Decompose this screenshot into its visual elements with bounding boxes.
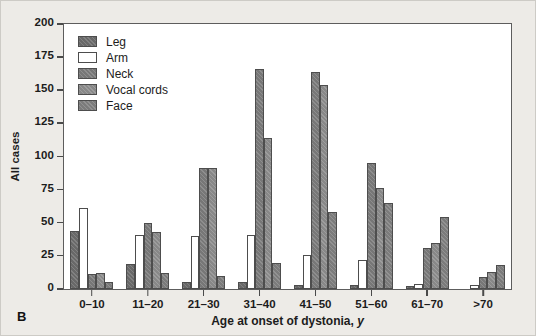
bar [191,236,200,289]
y-tick-label: 100 [35,149,55,161]
x-tick-mark [91,290,93,296]
x-tick: 41–50 [299,290,331,302]
legend-swatch-icon [78,68,97,79]
bar [247,235,256,289]
x-tick-label: 0–10 [79,298,105,310]
x-tick: 61–70 [411,290,443,302]
x-tick-label: >70 [473,298,493,310]
bar [88,274,97,289]
x-axis-tick-group: 0–1011–2021–3031–4041–5051–6061–70>70 [63,290,512,316]
x-tick-mark [426,290,428,296]
x-tick: 0–10 [79,290,105,302]
bar [199,168,208,289]
bar [135,235,144,289]
plot-frame: LegArmNeckVocal cordsFace [63,23,512,290]
y-tick-label: 75 [41,182,54,194]
bar [144,223,153,289]
x-axis-title-text: Age at onset of dystonia, [211,314,354,328]
x-tick: 51–60 [355,290,387,302]
y-tick-label: 50 [41,215,54,227]
bar [320,85,329,289]
x-tick-label: 41–50 [299,298,331,310]
bar [496,265,505,289]
x-tick-mark [371,290,373,296]
panel-label: B [17,309,26,324]
legend-swatch-icon [78,84,97,95]
x-tick: 31–40 [244,290,276,302]
y-tick-label: 25 [41,248,54,260]
bar [294,285,303,289]
x-axis-title: Age at onset of dystonia, y [63,314,512,328]
bar [470,285,479,289]
bar [217,276,226,289]
bar [487,272,496,289]
legend-label: Face [106,99,133,113]
x-tick-mark [482,290,484,296]
legend-swatch-icon [78,100,97,111]
bar [79,208,88,289]
x-tick-label: 21–30 [188,298,220,310]
x-tick: 21–30 [188,290,220,302]
x-tick-label: 51–60 [355,298,387,310]
legend-label: Vocal cords [106,83,168,97]
bar [479,277,488,289]
legend-item: Neck [78,66,168,81]
x-tick-mark [147,290,149,296]
bar [303,255,312,289]
y-tick-label: 0 [48,281,55,293]
bar [255,69,264,289]
x-tick-label: 11–20 [132,298,163,310]
bar [406,286,415,289]
bar [358,260,367,289]
legend-item: Face [78,98,168,113]
legend-label: Arm [106,51,128,65]
y-tick-label: 200 [35,16,55,28]
x-tick-mark [315,290,317,296]
legend-item: Arm [78,50,168,65]
bar [182,282,191,289]
x-tick-mark [203,290,205,296]
bar [440,217,449,289]
y-tick-label: 150 [35,82,55,94]
bar [161,273,170,289]
bar [105,282,114,289]
bar [423,248,432,289]
bar [96,273,105,289]
legend-swatch-icon [78,36,97,47]
bar [414,284,423,289]
x-tick-label: 61–70 [411,298,443,310]
bar [264,138,273,289]
x-tick-label: 31–40 [244,298,276,310]
legend-label: Neck [106,67,133,81]
legend: LegArmNeckVocal cordsFace [78,34,168,114]
y-axis-tick-group: 0255075100125150175200 [1,23,63,290]
bar [70,231,79,289]
bar [350,285,359,289]
bar [272,263,281,290]
bar [367,163,376,289]
legend-label: Leg [106,35,126,49]
legend-item: Leg [78,34,168,49]
bar [384,203,393,289]
x-tick: >70 [473,290,493,302]
bar [152,232,161,289]
x-tick-mark [259,290,261,296]
y-tick-label: 175 [35,49,55,61]
bar [311,72,320,289]
x-tick: 11–20 [132,290,163,302]
bar [208,168,217,289]
x-axis-title-unit: y [357,314,364,328]
figure-panel-b: All cases 0255075100125150175200 LegArmN… [0,0,536,336]
bar [238,282,247,289]
y-tick-label: 125 [35,115,55,127]
legend-item: Vocal cords [78,82,168,97]
legend-swatch-icon [78,52,97,63]
bar [376,188,385,289]
bar [126,264,135,289]
bar [328,212,337,289]
bar [431,243,440,289]
